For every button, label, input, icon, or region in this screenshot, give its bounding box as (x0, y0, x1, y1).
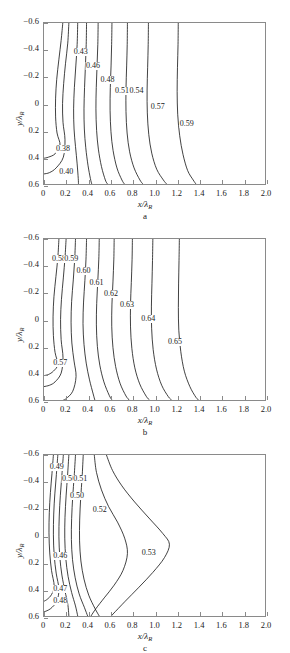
contour-label: 0.53 (141, 549, 156, 557)
contour-0.52 (91, 455, 127, 616)
contour-0.6 (83, 239, 95, 400)
x-tick-label: 2.0 (251, 404, 281, 414)
contour-0.65 (178, 239, 198, 400)
y-tick-label: 0.4 (13, 584, 39, 594)
x-tick (44, 180, 45, 184)
y-tick (44, 239, 48, 240)
x-tick (111, 612, 112, 616)
panel-b: 0.570.580.590.600.610.620.630.640.6500.2… (0, 216, 290, 432)
x-tick (178, 180, 179, 184)
y-tick (44, 537, 48, 538)
x-tick (178, 612, 179, 616)
contour-label: 0.63 (120, 301, 135, 309)
y-tick-label: 0 (13, 530, 39, 540)
y-tick (44, 132, 48, 133)
y-tick-label: −0.2 (13, 502, 39, 512)
contour-label: 0.59 (64, 255, 79, 263)
y-tick-label: −0.2 (13, 286, 39, 296)
panel-c: 0.490.500.510.500.520.460.530.470.4800.2… (0, 432, 290, 648)
contour-label: 0.51 (73, 475, 88, 483)
y-tick-label: −0.2 (13, 70, 39, 80)
contour-label: 0.43 (73, 48, 88, 56)
x-tick (66, 180, 67, 184)
x-tick (222, 180, 223, 184)
x-axis-title: x/λR (0, 631, 290, 642)
y-tick-label: 0.2 (13, 125, 39, 135)
y-tick (44, 618, 48, 619)
contour-label: 0.46 (86, 62, 101, 70)
y-tick (44, 591, 48, 592)
y-tick-label: 0.2 (13, 341, 39, 351)
plot-area-b: 0.570.580.590.600.610.620.630.640.65 (43, 238, 266, 401)
x-tick (89, 396, 90, 400)
x-tick (245, 180, 246, 184)
y-tick (44, 293, 48, 294)
y-tick-label: 0.4 (13, 152, 39, 162)
y-tick (44, 50, 48, 51)
x-tick (200, 396, 201, 400)
contour-label: 0.49 (49, 463, 64, 471)
x-tick (245, 396, 246, 400)
contour-label: 0.50 (69, 492, 84, 500)
y-tick-label: −0.6 (13, 448, 39, 458)
y-tick-label: −0.4 (13, 43, 39, 53)
contour-label: 0.62 (103, 290, 118, 298)
contour-0.61 (96, 239, 112, 400)
y-tick-label: 0.4 (13, 368, 39, 378)
y-tick (44, 105, 48, 106)
y-tick-label: 0.2 (13, 557, 39, 567)
contour-0.46 (44, 455, 54, 601)
y-tick-label: −0.4 (13, 475, 39, 485)
y-tick (44, 348, 48, 349)
y-tick (44, 509, 48, 510)
plot-area-a: 0.380.400.430.460.480.510.540.570.59 (43, 22, 266, 185)
contour-label: 0.60 (76, 267, 91, 275)
x-tick (89, 612, 90, 616)
x-tick (133, 396, 134, 400)
contour-0.51 (110, 23, 124, 184)
x-tick (178, 396, 179, 400)
y-tick (44, 159, 48, 160)
x-tick (44, 612, 45, 616)
x-tick (156, 396, 157, 400)
y-tick-label: −0.4 (13, 259, 39, 269)
contour-label: 0.54 (129, 87, 144, 95)
x-tick (222, 396, 223, 400)
x-tick (200, 612, 201, 616)
x-tick (267, 396, 268, 400)
y-axis-title: y/λR (14, 327, 25, 341)
x-tick (267, 612, 268, 616)
y-tick (44, 77, 48, 78)
x-tick (267, 180, 268, 184)
y-tick-label: 0.6 (13, 611, 39, 621)
x-tick (66, 396, 67, 400)
x-tick-label: 2.0 (251, 620, 281, 630)
x-tick (200, 180, 201, 184)
y-tick-label: −0.6 (13, 16, 39, 26)
contour-label: 0.46 (53, 552, 68, 560)
contour-label: 0.48 (100, 76, 115, 84)
contour-0.54 (126, 23, 143, 184)
contour-0.53 (106, 455, 169, 616)
contour-label: 0.59 (179, 120, 194, 128)
contour-label: 0.51 (115, 87, 130, 95)
x-tick (156, 612, 157, 616)
y-tick-label: 0 (13, 314, 39, 324)
x-tick (133, 180, 134, 184)
y-axis-title: y/λR (14, 543, 25, 557)
contour-0.59 (63, 239, 76, 400)
contour-label: 0.40 (59, 168, 74, 176)
contour-label: 0.57 (53, 359, 68, 367)
x-axis-title: x/λR (0, 415, 290, 426)
y-tick-label: −0.6 (13, 232, 39, 242)
y-tick (44, 402, 48, 403)
contour-label: 0.64 (141, 315, 156, 323)
contour-label: 0.47 (53, 585, 68, 593)
contour-label: 0.65 (168, 338, 183, 346)
y-tick (44, 455, 48, 456)
y-tick (44, 482, 48, 483)
x-tick (245, 612, 246, 616)
y-tick (44, 564, 48, 565)
contour-0.59 (177, 23, 196, 184)
contour-label: 0.48 (53, 597, 68, 605)
